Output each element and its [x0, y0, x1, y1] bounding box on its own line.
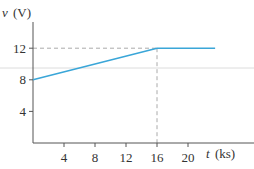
x-tick-label: 12 [120, 150, 133, 165]
axis-labels: v (V) t (ks) 481216204812 [2, 5, 235, 165]
voltage-line [33, 48, 215, 80]
y-tick-label: 4 [20, 104, 27, 119]
y-tick-label: 12 [13, 41, 26, 56]
x-tick-label: 20 [182, 150, 195, 165]
voltage-time-chart: v (V) t (ks) 481216204812 [0, 0, 254, 169]
x-tick-label: 8 [92, 150, 99, 165]
guide-lines [33, 48, 157, 143]
data-series [33, 48, 215, 80]
tick-marks [29, 48, 188, 147]
x-axis-label: t (ks) [206, 146, 235, 161]
y-axis-label: v (V) [2, 5, 31, 20]
x-tick-label: 16 [151, 150, 165, 165]
y-tick-label: 8 [20, 72, 27, 87]
axes [33, 22, 254, 143]
x-tick-label: 4 [61, 150, 68, 165]
